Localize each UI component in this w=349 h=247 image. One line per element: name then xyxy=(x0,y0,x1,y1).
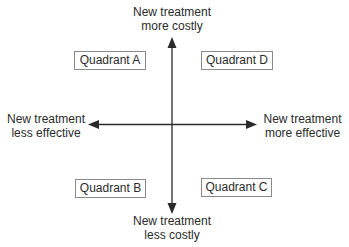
axis-label-left: New treatment less effective xyxy=(0,112,92,140)
axis-label-left-line1: New treatment xyxy=(0,112,92,126)
axis-label-right-line1: New treatment xyxy=(256,112,349,126)
axis-label-right: New treatment more effective xyxy=(256,112,349,140)
axis-label-top-line2: more costly xyxy=(122,19,222,33)
quadrant-b-box: Quadrant B xyxy=(75,179,146,198)
quadrant-c-box: Quadrant C xyxy=(201,178,272,197)
axis-label-top: New treatment more costly xyxy=(122,5,222,33)
axis-label-bottom-line2: less costly xyxy=(122,228,222,242)
axis-label-top-line1: New treatment xyxy=(122,5,222,19)
quadrant-a-box: Quadrant A xyxy=(74,51,146,70)
axis-label-bottom: New treatment less costly xyxy=(122,214,222,242)
axis-label-right-line2: more effective xyxy=(256,126,349,140)
arrow-down-icon xyxy=(168,203,177,214)
quadrant-d-box: Quadrant D xyxy=(201,51,273,70)
axis-label-left-line2: less effective xyxy=(0,126,92,140)
arrow-up-icon xyxy=(168,37,177,48)
axis-label-bottom-line1: New treatment xyxy=(122,214,222,228)
